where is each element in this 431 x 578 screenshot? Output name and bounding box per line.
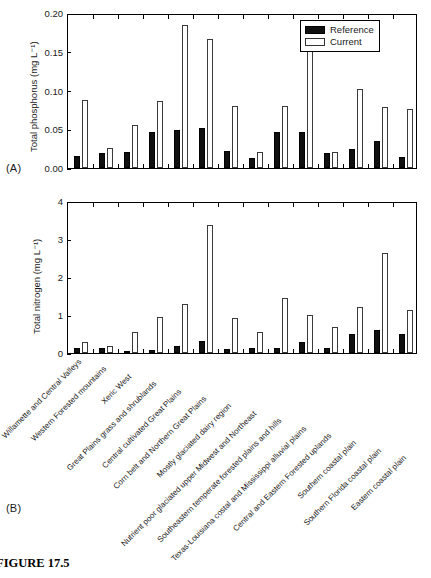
panel-a-y-axis-title: Total phosphorus (mg L⁻¹): [28, 41, 39, 152]
bar-reference: [299, 132, 305, 168]
x-axis-tick: [143, 349, 144, 353]
bar-current: [257, 332, 263, 353]
legend-swatch-reference: [305, 26, 325, 34]
bar-current: [207, 39, 213, 168]
bar-reference: [74, 348, 80, 353]
x-axis-tick: [368, 164, 369, 168]
x-axis-top-tick: [193, 15, 194, 19]
legend-item-label: Current: [330, 37, 362, 47]
bar-current: [357, 307, 363, 353]
x-axis-tick: [93, 164, 94, 168]
bar-current: [82, 342, 88, 353]
bar-current: [82, 100, 88, 168]
x-axis-tick: [368, 349, 369, 353]
bar-reference: [324, 348, 330, 353]
x-axis-top-tick: [218, 15, 219, 19]
bar-reference: [324, 153, 330, 169]
x-axis-tick: [193, 349, 194, 353]
x-axis-tick: [318, 349, 319, 353]
x-axis-top-tick: [143, 203, 144, 207]
x-axis-top-tick: [93, 203, 94, 207]
x-axis-top-tick: [343, 203, 344, 207]
x-axis-tick: [218, 349, 219, 353]
panel-b-bars-layer: [68, 203, 416, 353]
x-axis-tick: [168, 349, 169, 353]
x-axis-top-tick: [193, 203, 194, 207]
panel-a-total-phosphorus: (A) Total phosphorus (mg L⁻¹) 0.000.050.…: [0, 0, 431, 190]
bar-current: [157, 317, 163, 353]
x-axis-tick: [118, 164, 119, 168]
y-axis-tick-label: 0.05: [23, 124, 63, 135]
bar-reference: [174, 130, 180, 168]
x-axis-top-tick: [168, 15, 169, 19]
x-axis-top-tick: [368, 203, 369, 207]
bar-current: [157, 101, 163, 168]
y-axis-tick-label: 3: [23, 234, 63, 245]
y-axis-tick: [67, 169, 71, 170]
bar-reference: [399, 157, 405, 168]
bar-current: [132, 332, 138, 353]
bar-reference: [274, 132, 280, 168]
bar-current: [232, 106, 238, 168]
x-axis-top-tick: [243, 203, 244, 207]
y-axis-tick-label: 2: [23, 272, 63, 283]
bar-reference: [174, 346, 180, 353]
x-axis-top-tick: [243, 15, 244, 19]
bar-reference: [124, 152, 130, 168]
bar-reference: [349, 334, 355, 353]
x-axis-tick: [193, 164, 194, 168]
x-axis-top-tick: [268, 15, 269, 19]
bar-reference: [199, 341, 205, 353]
y-axis-tick-label: 1: [23, 310, 63, 321]
bar-current: [207, 225, 213, 353]
bar-current: [357, 89, 363, 168]
panel-b-plot-area: [67, 202, 417, 354]
x-axis-top-tick: [168, 203, 169, 207]
x-axis-tick: [343, 349, 344, 353]
bar-current: [307, 32, 313, 168]
legend-item: Reference: [305, 24, 374, 36]
y-axis-tick: [67, 130, 71, 131]
y-axis-tick-label: 4: [23, 196, 63, 207]
x-axis-tick: [268, 164, 269, 168]
x-axis-top-tick: [318, 15, 319, 19]
x-axis-tick: [168, 164, 169, 168]
bar-current: [182, 25, 188, 168]
bar-reference: [374, 141, 380, 168]
bar-reference: [99, 348, 105, 353]
bar-current: [407, 109, 413, 168]
bar-current: [257, 152, 263, 168]
x-axis-tick: [143, 164, 144, 168]
bar-reference: [274, 348, 280, 353]
bar-current: [107, 346, 113, 353]
chart-legend: ReferenceCurrent: [300, 20, 380, 52]
bar-reference: [224, 349, 230, 353]
bar-current: [232, 318, 238, 353]
legend-swatch-current: [305, 38, 325, 46]
y-axis-tick-label: 0.15: [23, 47, 63, 58]
x-axis-top-tick: [143, 15, 144, 19]
x-axis-tick: [218, 164, 219, 168]
bar-reference: [399, 334, 405, 353]
bar-reference: [249, 348, 255, 353]
bar-current: [182, 304, 188, 353]
bar-reference: [74, 156, 80, 168]
x-axis-top-tick: [118, 15, 119, 19]
bar-current: [332, 152, 338, 168]
x-axis-top-tick: [293, 203, 294, 207]
y-axis-tick: [67, 202, 71, 203]
figure-caption: FIGURE 17.5: [0, 556, 70, 571]
x-axis-top-tick: [268, 203, 269, 207]
bar-reference: [149, 132, 155, 168]
x-axis-tick: [243, 164, 244, 168]
y-axis-tick: [67, 278, 71, 279]
bar-reference: [149, 350, 155, 353]
bar-reference: [224, 151, 230, 168]
y-axis-tick: [67, 91, 71, 92]
bar-current: [332, 327, 338, 353]
y-axis-tick: [67, 14, 71, 15]
x-axis-tick: [118, 349, 119, 353]
x-axis-tick: [393, 164, 394, 168]
x-axis-top-tick: [218, 203, 219, 207]
figure-container: (A) Total phosphorus (mg L⁻¹) 0.000.050.…: [0, 0, 431, 578]
